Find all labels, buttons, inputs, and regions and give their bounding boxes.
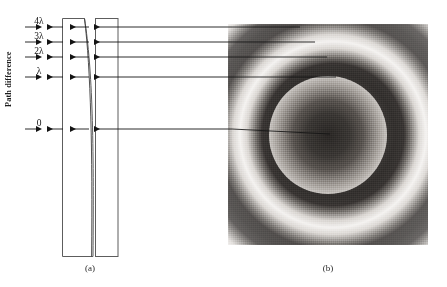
diagram-linework bbox=[0, 0, 447, 287]
order-label-3lambda: 3λ bbox=[26, 31, 52, 41]
axis-label-path-difference: Path difference bbox=[2, 0, 16, 107]
order-label-4lambda: 4λ bbox=[26, 16, 52, 26]
flat-glass-plate bbox=[96, 19, 119, 257]
curved-glass-plate bbox=[63, 19, 94, 257]
panel-caption-a: (a) bbox=[70, 263, 110, 274]
ray-group-order-0 bbox=[25, 129, 330, 134]
panel-caption-b: (b) bbox=[308, 263, 348, 274]
order-label-lambda: λ bbox=[26, 66, 52, 76]
order-label-2lambda: 2λ bbox=[26, 46, 52, 56]
order-label-zero: 0 bbox=[26, 118, 52, 128]
newtons-rings-figure: Path difference 4λ 3λ 2λ λ 0 (a) (b) bbox=[0, 0, 447, 287]
